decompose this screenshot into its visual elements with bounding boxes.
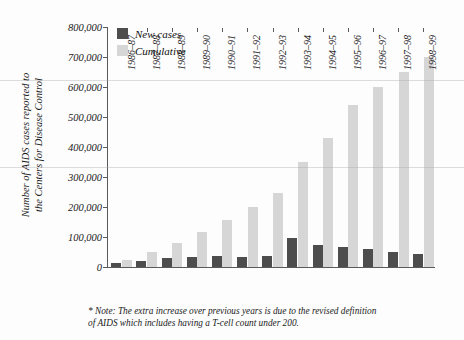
bar-new-cases xyxy=(111,263,121,267)
legend-label-new-cases: New cases xyxy=(135,28,181,40)
y-axis-tick xyxy=(103,267,108,268)
bar-cumulative xyxy=(273,193,283,267)
x-axis-tick xyxy=(423,28,424,32)
x-axis-tick-label: 1993–94 xyxy=(302,35,313,70)
bar-new-cases xyxy=(287,238,297,267)
bar-new-cases xyxy=(187,257,197,267)
y-axis-tick-label: 600,000 xyxy=(68,82,102,93)
y-axis-tick-label: 200,000 xyxy=(68,202,102,213)
bar-new-cases xyxy=(363,249,373,267)
chart-legend: New cases Cumulative xyxy=(117,26,237,60)
bar-cumulative xyxy=(323,138,333,267)
bar-cumulative xyxy=(147,252,157,267)
legend-item-new-cases: New cases xyxy=(117,26,237,41)
bar-new-cases xyxy=(262,256,272,267)
x-axis-line xyxy=(103,267,435,268)
legend-item-cumulative: Cumulative xyxy=(117,43,237,58)
y-axis-title: Number of AIDS cases reported to the Cen… xyxy=(12,30,52,260)
bar-cumulative xyxy=(399,72,409,267)
bar-new-cases xyxy=(313,245,323,267)
bar-cumulative xyxy=(197,232,207,267)
bar-cumulative xyxy=(298,162,308,267)
x-axis-tick-label: 1995–96 xyxy=(352,35,363,70)
legend-swatch-cumulative xyxy=(117,45,128,56)
x-axis-tick xyxy=(323,28,324,32)
bar-cumulative xyxy=(373,87,383,267)
y-axis-tick-label: 0 xyxy=(97,262,102,273)
legend-swatch-new-cases xyxy=(117,28,128,39)
x-axis-tick xyxy=(298,28,299,32)
bar-new-cases xyxy=(162,258,172,267)
x-axis-tick-label: 1992–93 xyxy=(277,35,288,70)
x-axis-tick-label: 1994–95 xyxy=(327,35,338,70)
x-axis-tick-label: 1997–98 xyxy=(402,35,413,70)
bar-new-cases xyxy=(136,261,146,267)
bar-new-cases xyxy=(237,257,247,268)
bar-cumulative xyxy=(172,243,182,267)
aids-cases-bar-chart: Number of AIDS cases reported to the Cen… xyxy=(0,0,464,340)
plot-area: 0100,000200,000300,000400,000500,000600,… xyxy=(108,27,435,267)
y-axis-tick-label: 100,000 xyxy=(68,232,102,243)
bar-cumulative xyxy=(248,207,258,267)
bar-cumulative xyxy=(348,105,358,267)
bar-cumulative xyxy=(424,57,434,267)
y-axis-tick-label: 700,000 xyxy=(68,52,102,63)
y-axis-tick-label: 500,000 xyxy=(68,112,102,123)
x-axis-tick xyxy=(247,28,248,32)
bar-cumulative xyxy=(122,260,132,268)
x-axis-tick-label: 1996–97 xyxy=(377,35,388,70)
x-axis-tick xyxy=(398,28,399,32)
legend-label-cumulative: Cumulative xyxy=(135,45,186,57)
y-axis-tick-label: 800,000 xyxy=(68,22,102,33)
bar-new-cases xyxy=(413,254,423,267)
bar-new-cases xyxy=(212,256,222,267)
bar-cumulative xyxy=(222,220,232,267)
bar-new-cases xyxy=(338,247,348,267)
bar-new-cases xyxy=(388,252,398,267)
chart-footnote: * Note: The extra increase over previous… xyxy=(88,305,428,329)
footnote-line-1: * Note: The extra increase over previous… xyxy=(88,305,428,317)
x-axis-tick-label: 1998–99 xyxy=(427,35,438,70)
x-axis-tick xyxy=(348,28,349,32)
y-axis-title-line-2: the Centers for Disease Control xyxy=(32,73,45,217)
y-axis-tick-label: 300,000 xyxy=(68,172,102,183)
y-axis-title-line-1: Number of AIDS cases reported to xyxy=(19,73,32,217)
y-axis-tick-label: 400,000 xyxy=(68,142,102,153)
x-axis-tick xyxy=(373,28,374,32)
x-axis-tick xyxy=(273,28,274,32)
x-axis-tick-label: 1991–92 xyxy=(251,35,262,70)
footnote-line-2: of AIDS which includes having a T-cell c… xyxy=(88,317,428,329)
